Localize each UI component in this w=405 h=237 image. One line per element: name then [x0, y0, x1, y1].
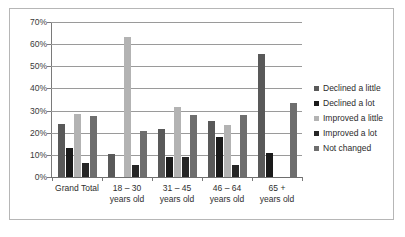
bar — [58, 124, 65, 177]
y-axis-labels: 70%60%50%40%30%20%10%0% — [10, 22, 47, 178]
x-axis-category-label: 18 – 30years old — [102, 183, 152, 205]
y-axis-tick-label: 10% — [13, 151, 47, 159]
legend-swatch-icon — [314, 86, 319, 91]
y-axis-tick-label: 20% — [13, 129, 47, 137]
x-axis-tick-mark — [52, 177, 53, 181]
bar-group — [202, 22, 252, 177]
legend-swatch-icon — [314, 101, 319, 106]
bar — [124, 37, 131, 177]
bar — [158, 129, 165, 177]
bar — [258, 54, 265, 177]
x-axis-label-line: years old — [102, 194, 152, 205]
x-axis-ticks — [52, 177, 302, 181]
bar — [132, 165, 139, 177]
bar — [266, 153, 273, 177]
bar — [224, 125, 231, 177]
bar — [140, 131, 147, 177]
y-axis-tick-label: 60% — [13, 40, 47, 48]
x-axis-tick-mark — [302, 177, 303, 181]
legend-item[interactable]: Improved a little — [314, 111, 392, 126]
x-axis-label-line: 46 – 64 — [202, 183, 252, 194]
chart-legend: Declined a littleDeclined a lotImproved … — [314, 81, 392, 156]
bar — [182, 157, 189, 177]
legend-label: Declined a lot — [323, 99, 375, 108]
x-axis-tick-mark — [102, 177, 103, 181]
y-axis-tick-label: 0% — [13, 173, 47, 181]
x-axis-labels: Grand Total18 – 30years old31 – 45years … — [52, 183, 302, 205]
y-axis-tick-label: 70% — [13, 18, 47, 26]
legend-item[interactable]: Declined a lot — [314, 96, 392, 111]
x-axis-label-line: years old — [202, 194, 252, 205]
x-axis-category-label: 65 +years old — [252, 183, 302, 205]
x-axis-label-line: 18 – 30 — [102, 183, 152, 194]
y-axis-tick-label: 50% — [13, 62, 47, 70]
legend-swatch-icon — [314, 146, 319, 151]
x-axis-category-label: 31 – 45years old — [152, 183, 202, 205]
bar-group — [152, 22, 202, 177]
bar — [108, 154, 115, 177]
x-axis-label-line: 31 – 45 — [152, 183, 202, 194]
bar-group — [252, 22, 302, 177]
legend-label: Declined a little — [323, 84, 381, 93]
legend-label: Improved a little — [323, 114, 383, 123]
chart-frame: 70%60%50%40%30%20%10%0% Grand Total18 – … — [9, 8, 394, 220]
legend-item[interactable]: Not changed — [314, 141, 392, 156]
x-axis-category-label: Grand Total — [52, 183, 102, 205]
bar — [66, 148, 73, 177]
legend-label: Not changed — [323, 144, 371, 153]
bar — [74, 114, 81, 177]
bar — [208, 121, 215, 177]
bar — [290, 103, 297, 177]
x-axis-category-label: 46 – 64years old — [202, 183, 252, 205]
bar — [174, 107, 181, 177]
bar — [82, 163, 89, 177]
bar — [232, 165, 239, 177]
x-axis-tick-mark — [152, 177, 153, 181]
bar — [240, 115, 247, 177]
y-axis-tick-label: 40% — [13, 84, 47, 92]
legend-item[interactable]: Improved a lot — [314, 126, 392, 141]
x-axis-label-line: years old — [252, 194, 302, 205]
x-axis-label-line: 65 + — [252, 183, 302, 194]
x-axis-label-line: Grand Total — [52, 183, 102, 194]
bar — [190, 115, 197, 177]
legend-swatch-icon — [314, 131, 319, 136]
bar — [166, 157, 173, 177]
y-axis-tick-label: 30% — [13, 107, 47, 115]
bar — [216, 137, 223, 177]
bar — [90, 116, 97, 177]
bar-group — [102, 22, 152, 177]
legend-item[interactable]: Declined a little — [314, 81, 392, 96]
x-axis-label-line: years old — [152, 194, 202, 205]
x-axis-tick-mark — [202, 177, 203, 181]
x-axis-tick-mark — [252, 177, 253, 181]
legend-label: Improved a lot — [323, 129, 377, 138]
bars-layer — [52, 22, 302, 177]
bar-group — [52, 22, 102, 177]
legend-swatch-icon — [314, 116, 319, 121]
